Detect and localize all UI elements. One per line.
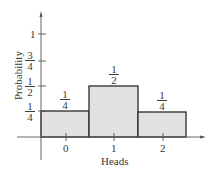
x-tick-label-0: 0 [63, 142, 69, 154]
x-tick-label-2: 2 [160, 142, 166, 154]
x-tick-label-1: 1 [111, 142, 117, 154]
bar-0-heads [41, 111, 89, 137]
bar-value-label-0: 14 [58, 89, 72, 110]
y-tick-label-1-2: 12 [23, 76, 37, 97]
y-axis-label: Probability [12, 51, 24, 100]
bar-2-heads [138, 112, 186, 137]
x-axis-arrow-icon [200, 136, 206, 139]
y-tick-label-1-4: 14 [23, 101, 37, 122]
y-axis-arrow-icon [40, 11, 43, 17]
bar-value-label-1: 12 [107, 64, 121, 85]
x-axis-label: Heads [101, 155, 129, 167]
y-tick-label-3-4: 34 [23, 50, 37, 71]
bar-value-label-2: 14 [155, 90, 169, 111]
y-tick-label-1: 1 [30, 28, 36, 40]
bar-1-heads [89, 86, 138, 137]
